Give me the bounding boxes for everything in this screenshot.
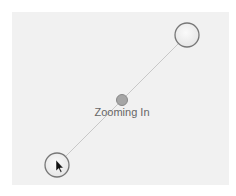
gesture-overlay xyxy=(0,0,236,196)
gesture-label: Zooming In xyxy=(92,106,152,118)
gesture-center-dot xyxy=(117,95,128,106)
touch-point-top-right xyxy=(175,23,199,47)
